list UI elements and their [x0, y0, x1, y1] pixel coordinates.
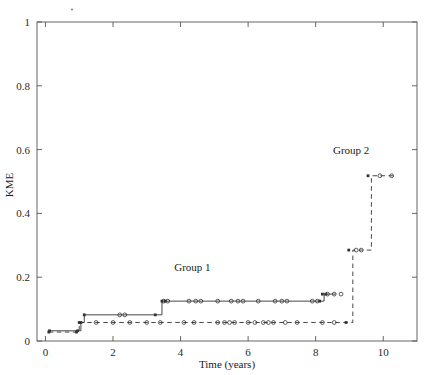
- event-marker: [83, 313, 86, 316]
- y-tick-label: 0.8: [16, 80, 30, 92]
- event-marker: [78, 321, 81, 324]
- y-tick-label: 1: [25, 16, 31, 28]
- y-tick-label: 0.2: [16, 271, 30, 283]
- event-marker: [321, 293, 324, 296]
- x-tick-label: 2: [110, 346, 116, 358]
- x-axis-title: Time (years): [199, 358, 255, 371]
- event-marker: [345, 321, 348, 324]
- plot-speck: [71, 8, 73, 10]
- event-marker: [154, 313, 157, 316]
- figure-background: [0, 0, 435, 375]
- x-tick-label: 4: [178, 346, 184, 358]
- x-tick-label: 8: [313, 346, 319, 358]
- x-tick-label: 6: [245, 346, 251, 358]
- event-marker: [75, 331, 78, 334]
- group-annotation: Group 1: [174, 261, 210, 273]
- y-axis-title: KME: [3, 173, 15, 198]
- x-tick-label: 0: [43, 346, 49, 358]
- event-marker: [347, 249, 350, 252]
- group-annotation: Group 2: [333, 144, 369, 156]
- event-marker: [367, 174, 370, 177]
- y-tick-label: 0.6: [16, 144, 30, 156]
- y-tick-label: 0: [25, 335, 31, 347]
- chart-figure: 0246810 00.20.40.60.81 Group 1Group 2 Ti…: [0, 0, 435, 375]
- kme-plot: 0246810 00.20.40.60.81 Group 1Group 2 Ti…: [0, 0, 435, 375]
- x-tick-label: 10: [378, 346, 390, 358]
- y-tick-label: 0.4: [16, 207, 30, 219]
- event-marker: [47, 331, 50, 334]
